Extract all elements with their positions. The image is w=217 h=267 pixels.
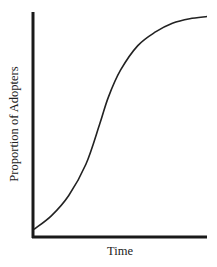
- chart-canvas: [0, 0, 217, 267]
- adoption-curve: [34, 17, 207, 230]
- y-axis-label: Proportion of Adopters: [7, 66, 22, 181]
- x-axis-label: Time: [107, 244, 133, 259]
